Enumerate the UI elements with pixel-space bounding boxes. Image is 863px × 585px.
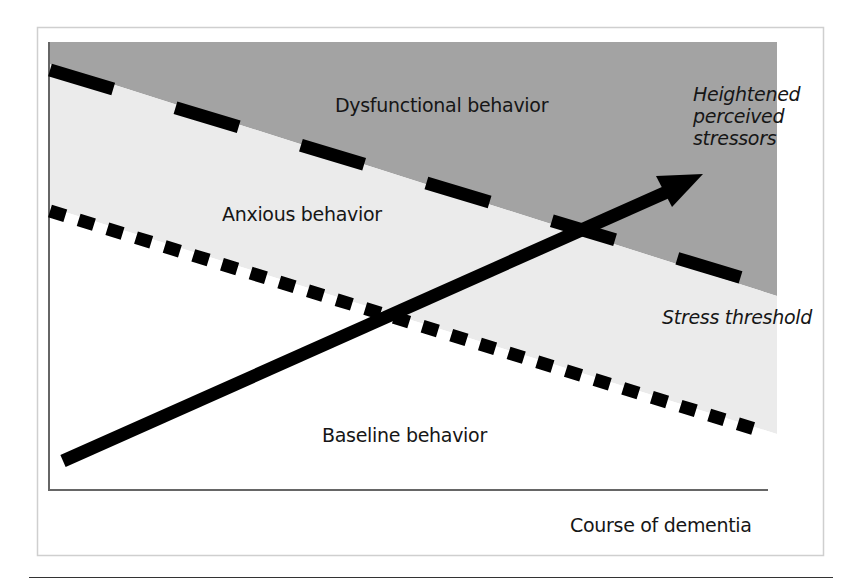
- stress-threshold-label: Stress threshold: [662, 306, 812, 328]
- baseline-label: Baseline behavior: [322, 424, 487, 446]
- stress-threshold-diagram: Dysfunctional behavior Anxious behavior …: [0, 0, 863, 585]
- x-axis-label: Course of dementia: [570, 514, 752, 536]
- anxious-label: Anxious behavior: [222, 203, 382, 225]
- stressors-label: Heightened perceived stressors: [693, 83, 800, 149]
- dysfunctional-label: Dysfunctional behavior: [335, 94, 548, 116]
